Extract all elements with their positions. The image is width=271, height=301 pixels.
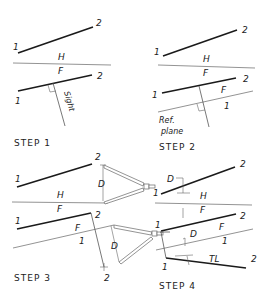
step3-front-point-2: 2 [95,210,101,220]
step3-label-h: H [57,190,64,200]
step4-front-point-2: 2 [240,211,246,221]
step3-top-point-1: 1 [15,174,21,184]
step4-top-point-2: 2 [240,159,246,169]
step4-true-length-line [166,258,246,268]
step2-ref-label-line2: plane [160,127,183,136]
step4-label-h: H [200,191,207,201]
step4-aux-point-2: 2 [251,254,257,264]
step1-front-point-2: 2 [97,71,103,81]
dividers-icon [114,225,163,264]
step2-top-point-2: 2 [242,25,248,35]
step2-caption: STEP 2 [159,142,196,152]
step4-projection-line [161,232,166,258]
step4-front-point-1: 1 [155,220,161,230]
step3-front-point-1: 1 [15,216,21,226]
step2-label-f: F [203,68,209,78]
step1-label-f: F [58,66,64,76]
step4-true-length-label: TL [209,254,220,264]
step2-ref-label-f: F [221,85,227,95]
step3-top-view-line [17,164,92,187]
step3-caption: STEP 3 [14,273,51,283]
step1-front-point-1: 1 [15,96,21,106]
step1-top-point-2: 2 [96,18,102,28]
step4-front-view-line [161,214,236,231]
step4-dim-label-d-top: D [167,174,174,184]
step2-label-h: H [203,54,210,64]
step1-top-point-1: 1 [13,42,19,52]
step-2-panel: 1 2 H F 1 2 F 1 Ref. plane STEP 2 [152,25,255,152]
step3-aux-point-2: 2 [104,273,110,283]
step3-ref-label-1: 1 [79,236,85,246]
step4-aux-point-1: 1 [162,262,168,272]
step1-sight-line [53,83,65,126]
step-4-panel: 1 2 D H F 1 2 D F 1 1 2 TL STEP 4 [153,159,257,291]
step4-ref-label-1: 1 [222,236,228,246]
dividers-icon [104,165,155,204]
step2-front-point-2: 2 [243,74,249,84]
step1-label-h: H [58,52,65,62]
step1-front-view-line [18,75,92,91]
step3-ref-label-f: F [75,223,81,233]
step-1-panel: 1 2 H F 1 2 Sight STEP 1 [13,18,111,148]
step4-reference-plane-line [156,229,253,250]
step2-ref-label-line1: Ref. [159,116,175,125]
step3-projection-line [91,213,104,267]
step4-caption: STEP 4 [159,281,196,291]
step4-label-f: F [200,205,206,215]
step2-front-point-1: 1 [152,90,158,100]
step3-top-point-2: 2 [95,152,101,162]
step-3-panel: 1 2 H F D 1 2 F 1 2 D [12,152,163,283]
step3-dim-label-d-bottom: D [111,241,118,251]
step4-ref-label-f: F [219,222,225,232]
step3-hf-fold-line [12,202,108,203]
step2-ref-label-1: 1 [224,101,230,111]
step4-dim-label-d-bottom: D [190,229,197,239]
step1-hf-fold-line [13,63,111,65]
step2-top-point-1: 1 [154,47,160,57]
step2-sight-line [199,86,209,127]
step1-top-view-line [18,27,93,53]
step2-top-view-line [163,30,237,56]
step2-reference-plane-line [158,91,253,112]
step1-sight-label: Sight [62,90,77,113]
step4-dimension-d-bottom [183,238,185,246]
step4-top-point-1: 1 [153,188,159,198]
true-length-diagram: 1 2 H F 1 2 Sight STEP 1 1 2 H F 1 2 F 1… [0,0,271,301]
step3-dim-label-d-top: D [98,179,105,189]
step4-dimension-d-top [176,178,183,193]
step1-caption: STEP 1 [14,138,51,148]
step3-label-f: F [57,204,63,214]
